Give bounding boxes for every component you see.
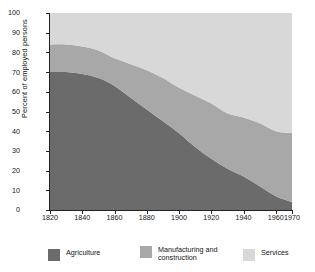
legend-item-services[interactable]: Services: [243, 248, 289, 261]
y-tick-label: 100: [0, 9, 20, 16]
legend-label-services: Services: [261, 248, 289, 257]
legend-item-agriculture[interactable]: Agriculture: [48, 248, 100, 261]
x-tick-mark: [147, 210, 148, 214]
y-tick-label: 50: [0, 108, 20, 115]
x-tick-mark: [211, 210, 212, 214]
y-tick-label: 70: [0, 69, 20, 76]
legend-label-agriculture: Agriculture: [66, 248, 100, 257]
legend-swatch-agriculture: [48, 249, 60, 261]
x-tick-label: 1970: [272, 213, 312, 222]
y-tick-label: 40: [0, 128, 20, 135]
y-tick-label: 80: [0, 49, 20, 56]
y-tick-label: 0: [0, 206, 20, 213]
stacked-area-plot: [50, 13, 292, 210]
x-tick-mark: [179, 210, 180, 214]
area-series-svg: [50, 13, 292, 210]
y-tick-label: 20: [0, 167, 20, 174]
x-axis-line: [49, 210, 293, 211]
legend-label-manufacturing: Manufacturing and construction: [158, 245, 232, 263]
y-tick-label: 30: [0, 147, 20, 154]
x-tick-mark: [115, 210, 116, 214]
y-tick-label: 90: [0, 29, 20, 36]
x-tick-mark: [244, 210, 245, 214]
x-tick-mark: [292, 210, 293, 214]
legend-swatch-services: [243, 249, 255, 261]
x-tick-mark: [82, 210, 83, 214]
y-tick-label: 60: [0, 88, 20, 95]
legend-swatch-manufacturing: [140, 246, 152, 258]
y-axis-title: Percent of employed persons: [20, 0, 29, 145]
x-tick-mark: [50, 210, 51, 214]
y-tick-label: 10: [0, 187, 20, 194]
plot-area: [50, 13, 292, 210]
legend-item-manufacturing[interactable]: Manufacturing and construction: [140, 245, 232, 263]
chart-legend: Agriculture Manufacturing and constructi…: [0, 243, 315, 272]
chart-figure: Percent of employed persons 010203040506…: [0, 0, 315, 272]
